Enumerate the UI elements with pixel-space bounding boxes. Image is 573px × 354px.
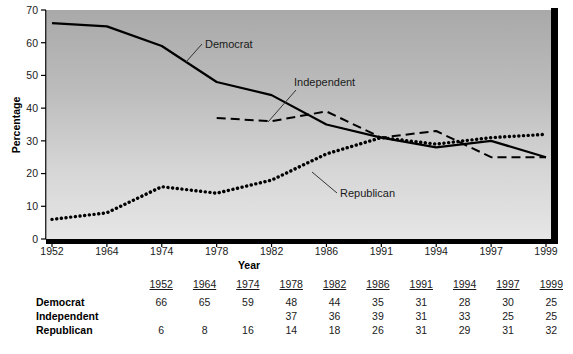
table-row-label-independent: Independent <box>0 309 140 323</box>
line-chart: 010203040506070 195219641974197819821986… <box>0 0 573 275</box>
table-row: Republican681614182631293132 <box>0 323 573 337</box>
y-tick-60: 60 <box>26 37 38 49</box>
table-cell: 48 <box>270 295 313 309</box>
axis-right-bar <box>551 8 558 242</box>
table-col-header-1974: 1974 <box>226 275 269 295</box>
table-col-header-1978: 1978 <box>270 275 313 295</box>
table-cell <box>140 309 183 323</box>
y-tick-40: 40 <box>26 102 38 114</box>
table-corner-label <box>0 275 140 295</box>
table-row-label-democrat: Democrat <box>0 295 140 309</box>
x-axis-tick-marks <box>52 244 546 247</box>
table-cell: 6 <box>140 323 183 337</box>
table-row: Independent37363931332525 <box>0 309 573 323</box>
table-cell: 25 <box>530 309 573 323</box>
table-cell: 33 <box>443 309 486 323</box>
table-cell: 26 <box>356 323 399 337</box>
annotation-independent: Independent <box>294 76 355 88</box>
y-tick-0: 0 <box>32 233 38 245</box>
table-cell: 16 <box>226 323 269 337</box>
data-table: 1952196419741978198219861991199419971999… <box>0 275 573 337</box>
table-cell <box>183 309 226 323</box>
table-cell: 8 <box>183 323 226 337</box>
y-axis-title: Percentage <box>10 97 22 154</box>
table-cell: 44 <box>313 295 356 309</box>
table-cell: 30 <box>486 295 529 309</box>
table-cell: 14 <box>270 323 313 337</box>
annotation-democrat: Democrat <box>205 38 253 50</box>
table-cell: 31 <box>400 323 443 337</box>
x-axis-tick-labels: 1952196419741978198219861991199419971999 <box>40 245 558 257</box>
annotation-republican: Republican <box>340 187 395 199</box>
table-col-header-1986: 1986 <box>356 275 399 295</box>
table-cell: 31 <box>400 309 443 323</box>
table-header-row: 1952196419741978198219861991199419971999 <box>0 275 573 295</box>
y-tick-70: 70 <box>26 4 38 16</box>
table-col-header-1952: 1952 <box>140 275 183 295</box>
chart-page: 010203040506070 195219641974197819821986… <box>0 0 573 354</box>
table-col-header-1999: 1999 <box>530 275 573 295</box>
table-cell: 29 <box>443 323 486 337</box>
table-cell: 31 <box>486 323 529 337</box>
y-tick-20: 20 <box>26 167 38 179</box>
table-cell: 32 <box>530 323 573 337</box>
table-cell: 39 <box>356 309 399 323</box>
table-cell: 66 <box>140 295 183 309</box>
table-cell: 35 <box>356 295 399 309</box>
y-axis-tick-labels: 010203040506070 <box>26 4 38 245</box>
table-col-header-1964: 1964 <box>183 275 226 295</box>
table-cell <box>226 309 269 323</box>
table-cell: 28 <box>443 295 486 309</box>
axis-bottom-bar <box>46 239 558 244</box>
table-col-header-1994: 1994 <box>443 275 486 295</box>
table-cell: 65 <box>183 295 226 309</box>
y-tick-50: 50 <box>26 69 38 81</box>
table-col-header-1997: 1997 <box>486 275 529 295</box>
chart-svg: 010203040506070 195219641974197819821986… <box>0 0 573 275</box>
table-cell: 59 <box>226 295 269 309</box>
x-axis-title: Year <box>238 259 260 271</box>
table-cell: 25 <box>530 295 573 309</box>
table-row-label-republican: Republican <box>0 323 140 337</box>
table-col-header-1991: 1991 <box>400 275 443 295</box>
table-cell: 36 <box>313 309 356 323</box>
plot-background <box>46 10 552 239</box>
table-cell: 18 <box>313 323 356 337</box>
table-cell: 25 <box>486 309 529 323</box>
table-row: Democrat66655948443531283025 <box>0 295 573 309</box>
y-tick-30: 30 <box>26 135 38 147</box>
table-cell: 37 <box>270 309 313 323</box>
axis-left-line <box>45 10 46 239</box>
table-cell: 31 <box>400 295 443 309</box>
table-col-header-1982: 1982 <box>313 275 356 295</box>
y-tick-10: 10 <box>26 200 38 212</box>
